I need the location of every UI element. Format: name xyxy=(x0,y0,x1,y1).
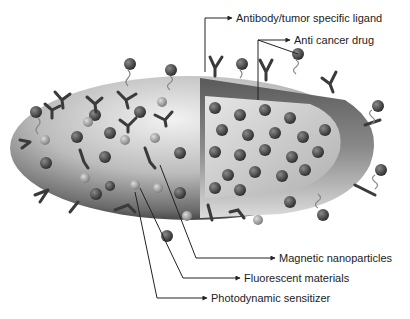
label-photodynamic-sensitizer: Photodynamic sensitizer xyxy=(211,292,330,304)
label-magnetic-nanoparticles: Magnetic nanoparticles xyxy=(279,252,392,264)
label-anti-cancer-drug: Anti cancer drug xyxy=(294,34,374,46)
label-antibody: Antibody/tumor specific ligand xyxy=(236,12,382,24)
label-fluorescent-materials: Fluorescent materials xyxy=(244,272,349,284)
nanoparticle-diagram: Antibody/tumor specific ligand Anti canc… xyxy=(0,0,410,319)
